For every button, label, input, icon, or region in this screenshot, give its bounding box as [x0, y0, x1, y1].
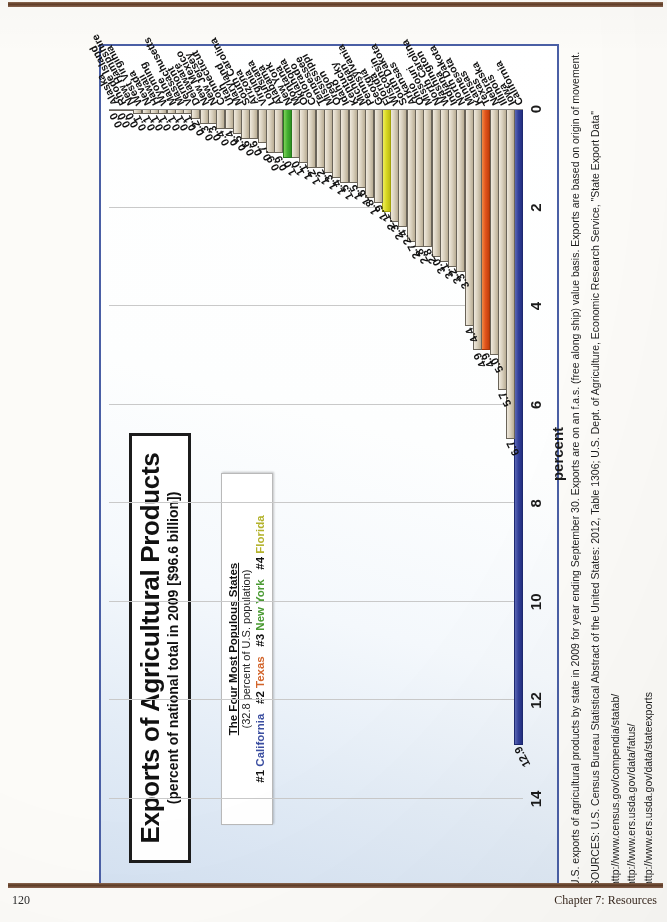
- bar-row: 0.1West Virginia: [133, 109, 142, 799]
- bar-row: 3.3North Dakota: [456, 109, 465, 799]
- bar-missouri: [423, 109, 432, 247]
- bar-iowa: [506, 109, 515, 439]
- bar-oklahoma: [299, 109, 308, 163]
- bar-arkansas: [407, 109, 416, 242]
- bar-kansas: [473, 109, 482, 351]
- tick-label: 14: [527, 791, 544, 808]
- page-rule-bottom: [8, 883, 663, 888]
- bar-kentucky: [349, 109, 358, 183]
- bar-row: 5.7Illinois: [498, 109, 507, 799]
- bar-row: 0.9Louisiana: [266, 109, 275, 799]
- bar-wisconsin: [390, 109, 399, 222]
- bar-arizona: [249, 109, 258, 139]
- bar-ohio: [415, 109, 424, 247]
- note-methodology: U.S. exports of agricultural products by…: [569, 44, 582, 887]
- bar-row: 0.4Utah: [225, 109, 234, 799]
- bar-row: 0.6South Carolina: [241, 109, 250, 799]
- value-axis-line: [109, 109, 523, 110]
- bar-row: 1.6Michigan: [357, 109, 366, 799]
- bar-nebraska: [490, 109, 499, 355]
- bar-row: 2.7Arkansas: [407, 109, 416, 799]
- bar-row: 3.2Indiana: [448, 109, 457, 799]
- bar-tennessee: [316, 109, 325, 168]
- bar-north-dakota: [456, 109, 465, 272]
- bar-row: 0.1Nevada: [142, 109, 151, 799]
- bar-north-carolina: [432, 109, 441, 257]
- bar-virginia: [258, 109, 267, 144]
- tick-label: 12: [527, 692, 544, 709]
- bar-row: 0.4Connecticut: [216, 109, 225, 799]
- axis-title: percent: [549, 109, 566, 799]
- bar-michigan: [357, 109, 366, 188]
- tick-label: 2: [527, 203, 544, 211]
- bar-row: 5.0Nebraska: [490, 109, 499, 799]
- bar-colorado: [307, 109, 316, 168]
- bar-row: 1.3Mississippi: [324, 109, 333, 799]
- bar-row: 0.6Arizona: [249, 109, 258, 799]
- bar-row: 1.4Oregon: [332, 109, 341, 799]
- source-url-2: http://www.ers.usda.gov/data/fatus/: [625, 44, 638, 887]
- bar-georgia: [374, 109, 383, 203]
- bar-south-dakota: [398, 109, 407, 227]
- bar-row: 0.3New Mexico: [200, 109, 209, 799]
- bar-oregon: [332, 109, 341, 178]
- bar-row: 2.3Wisconsin: [390, 109, 399, 799]
- bar-row: 0.0Alaska: [109, 109, 118, 799]
- bar-row: 1.5Idaho: [340, 109, 349, 799]
- bar-row: 2.8Ohio: [415, 109, 424, 799]
- bar-row: 4.9Kansas: [473, 109, 482, 799]
- tick-label: 8: [527, 499, 544, 507]
- bar-row: 4.4Minnesota: [465, 109, 474, 799]
- bar-row: 1.1Oklahoma: [299, 109, 308, 799]
- page-rule-top: [8, 2, 663, 7]
- bar-row: 1.5Kentucky: [349, 109, 358, 799]
- bar-new-jersey: [208, 109, 217, 124]
- bar-mississippi: [324, 109, 333, 173]
- bar-row: 0.2Delaware: [191, 109, 200, 799]
- chart-card: Exports of Agricultural Products (percen…: [99, 44, 559, 887]
- bar-row: 2.4South Dakota: [398, 109, 407, 799]
- bar-texas: [481, 109, 490, 351]
- bar-row: 1.0New York: [283, 109, 292, 799]
- bar-row: 0.1Massachusetts: [175, 109, 184, 799]
- bar-illinois: [498, 109, 507, 390]
- source-notes: U.S. exports of agricultural products by…: [569, 44, 658, 887]
- bar-row: 2.8Missouri: [423, 109, 432, 799]
- tick-label: 10: [527, 594, 544, 611]
- tick-label: 0: [527, 105, 544, 113]
- bar-row: 1.2Tennessee: [316, 109, 325, 799]
- bar-row: 0.1Wyoming: [158, 109, 167, 799]
- bar-row: 1.2Colorado: [307, 109, 316, 799]
- tick-label: 6: [527, 401, 544, 409]
- bar-row: 0.1Hawaii: [150, 109, 159, 799]
- bar-california: [514, 109, 523, 745]
- bar-minnesota: [465, 109, 474, 326]
- bar-row: 0.5Maryland: [233, 109, 242, 799]
- bar-row: 6.7Iowa: [506, 109, 515, 799]
- bar-row: 0.9Alabama: [274, 109, 283, 799]
- bar-alabama: [274, 109, 283, 153]
- bar-row: 3.1Washington: [440, 109, 449, 799]
- bar-indiana: [448, 109, 457, 267]
- bar-row: 4.9Texas: [481, 109, 490, 799]
- source-url-1: http://www.census.gov/compendia/statab/: [609, 44, 622, 887]
- bar-value-label: 12.9: [512, 745, 533, 770]
- bar-pennsylvania: [365, 109, 374, 198]
- rotated-figure-container: Exports of Agricultural Products (percen…: [99, 35, 569, 887]
- footer-chapter-label: Chapter 7: Resources: [554, 893, 657, 908]
- bar-row: 0.7Virginia: [258, 109, 267, 799]
- plot-area: 12.9California6.7Iowa5.7Illinois5.0Nebra…: [109, 109, 553, 799]
- bar-washington: [440, 109, 449, 262]
- bar-utah: [225, 109, 234, 129]
- bar-idaho: [340, 109, 349, 183]
- bar-row: 1.0Montana: [291, 109, 300, 799]
- scanned-page: Exports of Agricultural Products (percen…: [0, 0, 667, 922]
- bar-montana: [291, 109, 300, 158]
- tick-label: 4: [527, 302, 544, 310]
- bar-row: 0.3New Jersey: [208, 109, 217, 799]
- bar-florida: [382, 109, 391, 213]
- bar-row: 3.0North Carolina: [432, 109, 441, 799]
- bar-south-carolina: [241, 109, 250, 139]
- bar-row: 1.8Pennsylvania: [365, 109, 374, 799]
- footer-page-number: 120: [12, 893, 30, 908]
